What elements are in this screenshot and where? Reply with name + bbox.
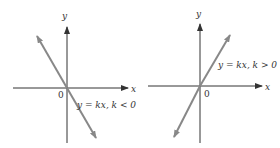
left-line-negative-slope [37, 36, 67, 88]
left-y-label: y [61, 11, 68, 21]
right-y-label: y [195, 9, 202, 19]
right-equation: y = kx, k > 0 [217, 60, 277, 70]
right-x-label: x [265, 82, 270, 92]
left-line-negative-slope-lower [67, 88, 96, 138]
right-graph: y x 0 y = kx, k > 0 [148, 9, 277, 143]
left-origin-label: 0 [58, 90, 64, 100]
diagram-canvas: y x 0 y = kx, k < 0 y x 0 y = kx, k > 0 [0, 0, 280, 148]
left-equation: y = kx, k < 0 [76, 100, 136, 110]
right-origin-label: 0 [204, 89, 210, 99]
left-x-label: x [131, 84, 136, 94]
right-line-positive-slope-lower [174, 86, 200, 137]
left-graph: y x 0 y = kx, k < 0 [13, 11, 136, 143]
